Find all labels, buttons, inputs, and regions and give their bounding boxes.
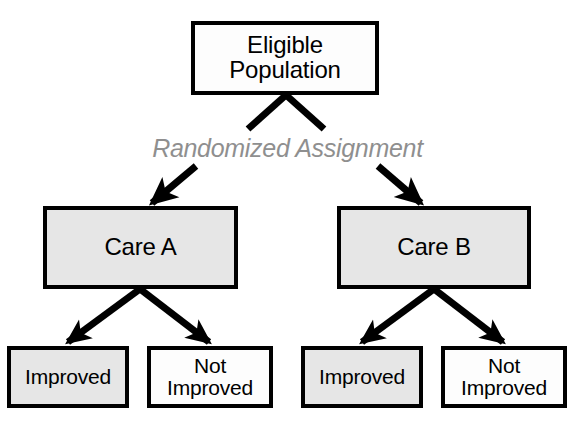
node-not-improved-care-b-label: Not Improved (459, 355, 549, 399)
node-eligible-population: Eligible Population (191, 21, 379, 95)
edge-care-b-to-not-improved (434, 289, 503, 342)
node-care-a: Care A (43, 206, 238, 289)
node-not-improved-care-b: Not Improved (441, 346, 567, 408)
node-care-b: Care B (337, 206, 531, 289)
node-not-improved-care-a: Not Improved (147, 346, 273, 408)
edge-care-a-to-not-improved (140, 289, 209, 342)
node-care-a-label: Care A (102, 235, 178, 260)
node-eligible-population-label: Eligible Population (227, 33, 342, 83)
edge-care-b-to-improved (362, 289, 434, 342)
node-improved-care-a: Improved (7, 346, 129, 408)
node-care-b-label: Care B (395, 235, 473, 260)
randomized-assignment-annotation: Randomized Assignment (0, 134, 575, 163)
node-improved-care-b: Improved (301, 346, 423, 408)
node-improved-care-b-label: Improved (317, 366, 407, 388)
node-not-improved-care-a-label: Not Improved (165, 355, 255, 399)
edge-care-a-to-improved (68, 289, 140, 342)
rct-flow-diagram: Eligible Population Randomized Assignmen… (0, 0, 575, 423)
node-improved-care-a-label: Improved (23, 366, 113, 388)
